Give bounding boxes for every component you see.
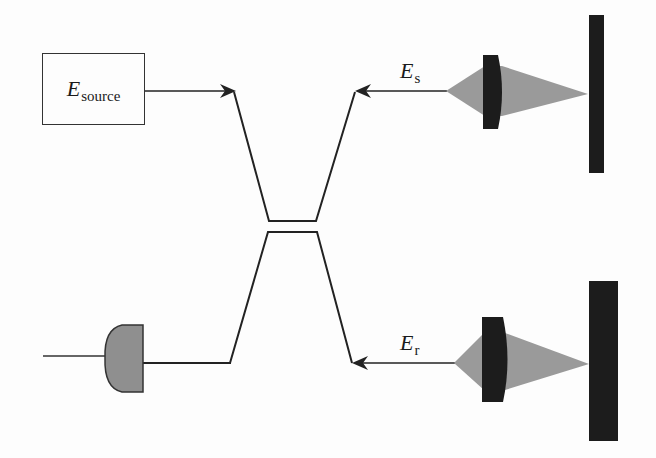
source-label: Esource [67, 76, 121, 102]
sample-subscript: s [414, 70, 420, 86]
sample-field-label: Es [400, 58, 420, 84]
source-subscript: source [81, 88, 120, 104]
sample-beam-cone [446, 66, 588, 116]
reference-beam-cone [454, 333, 589, 390]
reference-mirror [589, 281, 618, 441]
sample-mirror [589, 15, 604, 173]
sample-lens [483, 55, 502, 129]
sample-symbol: E [400, 58, 413, 83]
reference-arrow [352, 356, 455, 370]
detector [43, 325, 231, 392]
reference-field-label: Er [400, 330, 419, 356]
source-symbol: E [67, 76, 80, 101]
reference-symbol: E [400, 330, 413, 355]
sample-arrow [355, 84, 447, 98]
source-arrow [145, 84, 236, 98]
reference-lens [482, 317, 508, 402]
reference-subscript: r [414, 342, 419, 358]
fiber-coupler [230, 92, 355, 363]
source-box: Esource [42, 53, 145, 125]
